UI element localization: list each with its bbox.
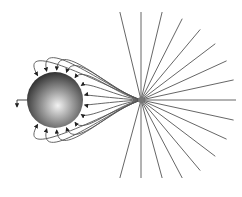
conducting-sphere (27, 72, 83, 128)
field-diagram (0, 0, 242, 197)
point-charge (138, 97, 144, 103)
ground-arrow-icon (17, 100, 27, 107)
radial-field-lines (120, 12, 236, 178)
